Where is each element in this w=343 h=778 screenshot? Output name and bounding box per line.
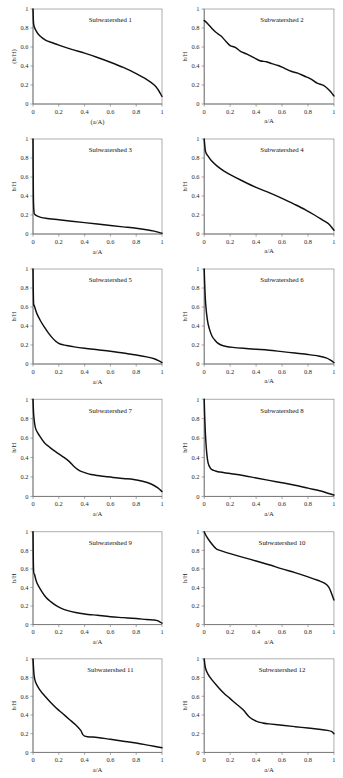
y-tick-label: 0 bbox=[25, 749, 28, 756]
y-tick-label: 0.2 bbox=[20, 211, 28, 218]
chart-panel: 00.20.40.60.8100.20.40.60.81a/Ah/HSubwat… bbox=[171, 390, 343, 523]
y-tick-label: 0 bbox=[25, 360, 28, 367]
y-tick-label: 0.4 bbox=[20, 711, 29, 718]
y-tick-label: 0.8 bbox=[192, 24, 200, 31]
x-tick-label: 1 bbox=[160, 368, 163, 375]
y-tick-label: 0.4 bbox=[192, 454, 201, 461]
x-tick-label: 0.2 bbox=[55, 108, 63, 115]
x-tick-label: 0.8 bbox=[132, 108, 140, 115]
x-tick-label: 0.8 bbox=[132, 756, 140, 763]
x-tick-label: 0.6 bbox=[106, 108, 114, 115]
x-tick-label: 0.4 bbox=[252, 368, 261, 375]
y-tick-label: 0.4 bbox=[192, 62, 201, 69]
x-tick-label: 0.6 bbox=[278, 238, 287, 245]
x-axis-title: a/A bbox=[264, 510, 274, 517]
y-tick-label: 0.6 bbox=[192, 693, 200, 700]
x-tick-label: 0.6 bbox=[278, 108, 287, 115]
x-axis-title: a/A bbox=[264, 638, 274, 645]
x-tick-label: 0.6 bbox=[278, 756, 286, 763]
x-tick-label: 1 bbox=[160, 628, 163, 635]
y-axis-title: h/H bbox=[10, 573, 17, 583]
y-tick-label: 0.6 bbox=[192, 303, 201, 310]
panel-title: Subwatershed 12 bbox=[259, 666, 306, 673]
y-tick-label: 0.2 bbox=[192, 81, 200, 88]
y-tick-label: 1 bbox=[196, 265, 199, 272]
x-tick-label: 0 bbox=[203, 500, 206, 507]
panel-title: Subwatershed 1 bbox=[89, 16, 132, 23]
y-tick-label: 0 bbox=[25, 100, 28, 107]
y-tick-label: 0.2 bbox=[20, 341, 28, 348]
x-tick-label: 0.8 bbox=[304, 108, 312, 115]
y-tick-label: 0.4 bbox=[20, 454, 29, 461]
y-tick-label: 0.2 bbox=[192, 211, 200, 218]
y-axis-title: h/H bbox=[181, 51, 188, 61]
x-axis-title: a/A bbox=[264, 378, 274, 385]
y-tick-label: 0.4 bbox=[20, 322, 29, 329]
y-tick-label: 0.2 bbox=[192, 602, 200, 609]
panel-title: Subwatershed 10 bbox=[259, 539, 307, 546]
x-tick-label: 0.8 bbox=[132, 500, 140, 507]
x-tick-label: 1 bbox=[332, 108, 335, 115]
x-tick-label: 0.4 bbox=[81, 500, 90, 507]
y-tick-label: 0.2 bbox=[20, 81, 28, 88]
x-tick-label: 0 bbox=[31, 368, 34, 375]
y-tick-label: 0.8 bbox=[20, 284, 28, 291]
x-tick-label: 1 bbox=[160, 500, 163, 507]
y-tick-label: 0 bbox=[196, 621, 199, 628]
x-tick-label: 0 bbox=[203, 368, 206, 375]
x-tick-label: 0.6 bbox=[106, 500, 115, 507]
y-tick-label: 0.6 bbox=[192, 43, 201, 50]
x-tick-label: 0.6 bbox=[278, 500, 287, 507]
x-tick-label: 0.4 bbox=[81, 628, 90, 635]
y-tick-label: 0.6 bbox=[192, 434, 201, 441]
y-tick-label: 0 bbox=[196, 749, 199, 756]
x-tick-label: 0.6 bbox=[106, 756, 114, 763]
y-axis-title: h/H bbox=[181, 701, 188, 711]
y-tick-label: 0 bbox=[25, 493, 28, 500]
y-tick-label: 1 bbox=[196, 135, 199, 142]
x-tick-label: 0.8 bbox=[132, 238, 140, 245]
chart-panel: 00.20.40.60.8100.20.40.60.81a/Ah/HSubwat… bbox=[0, 650, 171, 778]
y-axis-title: h/H bbox=[181, 311, 188, 321]
x-tick-label: 0 bbox=[203, 238, 206, 245]
y-tick-label: 0.6 bbox=[20, 43, 28, 50]
y-tick-label: 1 bbox=[25, 655, 28, 662]
x-tick-label: 1 bbox=[160, 108, 163, 115]
y-tick-label: 0.4 bbox=[20, 584, 29, 591]
figure-panel-grid: 00.20.40.60.8100.20.40.60.81(a/A)(h/H)Su… bbox=[0, 0, 343, 778]
x-tick-label: 0.8 bbox=[304, 238, 312, 245]
x-tick-label: 0.4 bbox=[81, 756, 90, 763]
y-tick-label: 0.8 bbox=[192, 674, 200, 681]
x-tick-label: 0.4 bbox=[252, 628, 261, 635]
x-axis-title: a/A bbox=[93, 248, 103, 255]
chart-panel: 00.20.40.60.8100.20.40.60.81a/Ah/HSubwat… bbox=[171, 650, 343, 778]
chart-panel: 00.20.40.60.8100.20.40.60.81a/Ah/HSubwat… bbox=[0, 523, 171, 650]
x-tick-label: 0.2 bbox=[55, 628, 63, 635]
panel-title: Subwatershed 11 bbox=[87, 666, 133, 673]
y-tick-label: 0.8 bbox=[20, 24, 28, 31]
y-tick-label: 0.6 bbox=[20, 434, 29, 441]
x-tick-label: 0.4 bbox=[252, 756, 261, 763]
y-tick-label: 0.4 bbox=[20, 62, 29, 69]
x-tick-label: 0 bbox=[203, 756, 206, 763]
x-axis-title: a/A bbox=[93, 766, 103, 773]
y-tick-label: 0 bbox=[25, 230, 28, 237]
y-tick-label: 0.8 bbox=[20, 547, 28, 554]
x-tick-label: 0.2 bbox=[55, 500, 63, 507]
y-tick-label: 0 bbox=[196, 493, 199, 500]
chart-panel: 00.20.40.60.8100.20.40.60.81a/Ah/HSubwat… bbox=[171, 0, 343, 130]
x-axis-title: a/A bbox=[93, 638, 103, 645]
y-tick-label: 1 bbox=[196, 655, 199, 662]
y-tick-label: 0 bbox=[196, 360, 199, 367]
x-tick-label: 0.8 bbox=[304, 628, 312, 635]
x-tick-label: 0.8 bbox=[304, 368, 312, 375]
y-tick-label: 0.4 bbox=[192, 584, 201, 591]
x-tick-label: 0 bbox=[31, 238, 34, 245]
y-axis-title: (h/H) bbox=[10, 49, 18, 63]
x-tick-label: 0.8 bbox=[132, 628, 140, 635]
x-tick-label: 1 bbox=[332, 756, 335, 763]
y-tick-label: 0.8 bbox=[192, 154, 200, 161]
chart-panel: 00.20.40.60.8100.20.40.60.81a/Ah/HSubwat… bbox=[171, 523, 343, 650]
x-tick-label: 0.4 bbox=[252, 500, 261, 507]
x-tick-label: 0.8 bbox=[304, 500, 312, 507]
